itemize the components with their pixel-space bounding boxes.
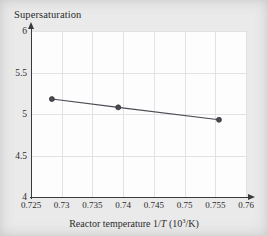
y-tick-label: 5 [22, 109, 27, 119]
series-line [52, 99, 219, 120]
x-tick-label: 0.735 [82, 200, 102, 210]
x-tick-label: 0.74 [115, 200, 131, 210]
x-tick-label: 0.725 [21, 200, 41, 210]
figure-container: Supersaturation 44.555.56 0.7250.730.735… [0, 0, 268, 236]
x-axis-label-paren-open: (10 [166, 218, 182, 229]
x-axis-label: Reactor temperature 1/T (103/K) [69, 217, 199, 229]
gridline-vertical [246, 31, 247, 197]
x-axis-label-lead: Reactor temperature 1/ [69, 218, 161, 229]
y-tick-label: 6 [22, 26, 27, 36]
y-tick-label: 5.5 [15, 68, 27, 78]
x-tick-label: 0.73 [54, 200, 70, 210]
x-axis-line [30, 197, 251, 198]
data-point-marker [116, 105, 121, 110]
x-tick-label: 0.75 [177, 200, 193, 210]
data-series [31, 31, 246, 197]
x-axis-label-paren-close: /K) [185, 218, 198, 229]
data-point-marker [49, 97, 54, 102]
data-point-marker [216, 117, 221, 122]
x-tick-label: 0.745 [144, 200, 164, 210]
y-tick-label: 4.5 [15, 151, 27, 161]
x-tick-label: 0.755 [205, 200, 225, 210]
x-tick-label: 0.76 [238, 200, 254, 210]
